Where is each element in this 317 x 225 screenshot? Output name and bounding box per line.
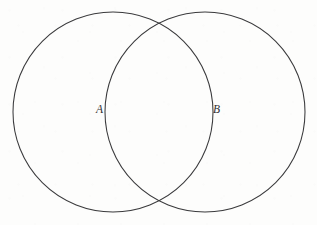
set-b-label: B <box>213 104 220 116</box>
venn-diagram-figure: A B <box>0 0 317 225</box>
set-a-circle <box>13 12 213 212</box>
set-a-label: A <box>96 104 103 116</box>
set-b-circle <box>105 12 305 212</box>
venn-diagram-canvas <box>0 0 317 225</box>
